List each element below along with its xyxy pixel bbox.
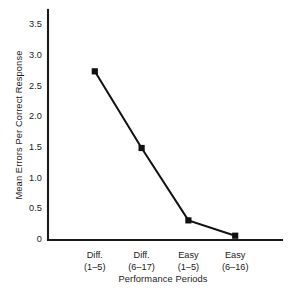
x-tick-label-3: Easy(6–16): [195, 250, 275, 273]
data-point-0: [92, 68, 98, 74]
x-axis-title: Performance Periods: [0, 274, 288, 284]
y-tick-label-3-0: 3.0: [29, 50, 42, 60]
x-tick-label-1-line1: Diff.: [134, 250, 150, 260]
data-point-1: [139, 145, 145, 151]
y-tick-label-0-5: 0.5: [29, 203, 42, 213]
x-tick-label-3-line2: (6–16): [195, 262, 275, 274]
y-tick-label-1-5: 1.5: [29, 142, 42, 152]
y-tick-label-2-5: 2.5: [29, 81, 42, 91]
chart-figure: 00.51.01.52.02.53.03.5 Diff.(1–5)Diff.(6…: [0, 0, 288, 292]
y-tick-label-2-0: 2.0: [29, 111, 42, 121]
y-axis-title: Mean Errors Per Correct Response: [14, 51, 24, 200]
data-series-line: [95, 71, 235, 235]
x-tick-label-0-line1: Diff.: [87, 250, 103, 260]
x-tick-label-3-line1: Easy: [225, 250, 245, 260]
data-point-2: [185, 217, 191, 223]
y-tick-label-0: 0: [37, 234, 42, 244]
data-markers: [92, 68, 239, 239]
y-tick-label-1-0: 1.0: [29, 173, 42, 183]
chart-plot-area: [0, 0, 288, 292]
y-tick-label-3-5: 3.5: [29, 19, 42, 29]
data-point-3: [232, 233, 238, 239]
